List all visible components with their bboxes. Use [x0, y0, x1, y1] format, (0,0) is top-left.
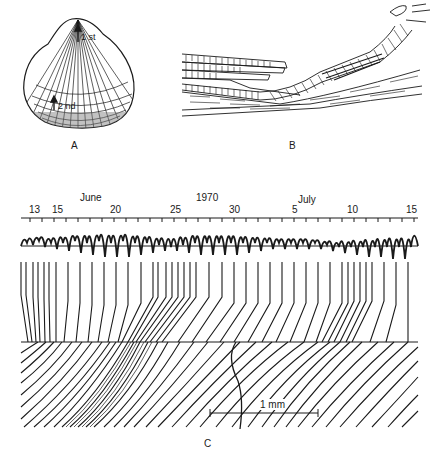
- scale-bar-label: 1 mm: [259, 399, 286, 410]
- panel-c-label: C: [204, 438, 211, 449]
- panel-a: 1 st 2 nd A: [0, 0, 150, 160]
- shell-section-illustration: [150, 0, 434, 160]
- panel-b-label: B: [289, 140, 296, 151]
- scale-bar: [210, 409, 318, 417]
- tide-curve: [21, 235, 418, 259]
- shell-illustration: [0, 0, 150, 160]
- growth-increment-diagram: [0, 185, 434, 461]
- panel-a-label: A: [71, 140, 78, 151]
- second-growth-mark-label: 2 nd: [58, 101, 76, 111]
- panel-b: B: [150, 0, 434, 160]
- first-growth-mark-label: 1 st: [81, 32, 96, 42]
- panel-c: June 1970 July 13 15 20 25 30 5 10 15: [0, 185, 434, 461]
